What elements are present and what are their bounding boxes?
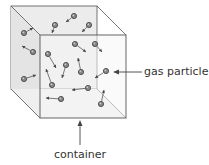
container-cube <box>11 6 126 118</box>
gas-container-diagram <box>0 0 209 165</box>
container-pointer-arrow <box>78 120 83 145</box>
gas-particle-pointer-arrow <box>113 70 142 75</box>
gas-particle-label: gas particle <box>144 65 208 78</box>
container-label: container <box>54 148 106 161</box>
